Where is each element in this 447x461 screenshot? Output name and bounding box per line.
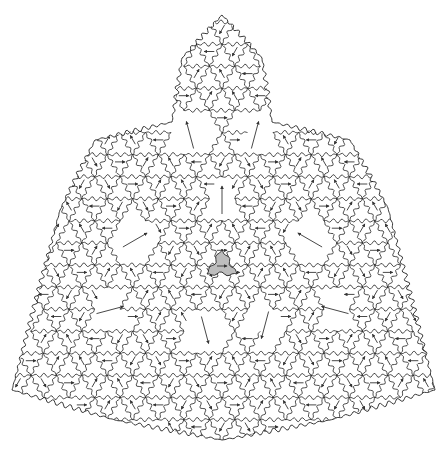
arrow-icon — [232, 356, 237, 365]
arrow-icon — [360, 356, 365, 365]
large-arrow-icon — [261, 312, 268, 339]
arrow-icon — [385, 356, 390, 365]
arrow-icon — [156, 312, 161, 321]
arrow-icon — [79, 312, 84, 321]
arrow-icon — [232, 180, 237, 189]
arrow-icon — [360, 224, 365, 233]
fractal-tiling-figure — [0, 0, 447, 461]
arrow-icon — [334, 268, 339, 277]
arrow-icon — [385, 224, 390, 233]
direction-arrows — [16, 25, 429, 431]
arrow-icon — [169, 290, 174, 299]
arrow-icon — [283, 356, 288, 365]
arrow-icon — [258, 180, 263, 189]
large-arrow-icon — [97, 306, 124, 313]
arrow-icon — [309, 180, 314, 189]
arrow-icon — [334, 401, 339, 410]
arrow-icon — [220, 69, 225, 78]
arrow-icon — [245, 290, 250, 299]
arrow-icon — [245, 158, 250, 167]
arrow-icon — [194, 202, 199, 211]
tiling-canvas — [0, 0, 447, 461]
arrow-icon — [258, 401, 263, 410]
arrow-icon — [296, 334, 301, 343]
arrow-icon — [347, 202, 352, 211]
arrow-icon — [143, 202, 148, 211]
arrow-icon — [92, 246, 97, 255]
arrow-icon — [143, 158, 148, 167]
arrow-icon — [373, 202, 378, 211]
arrow-icon — [258, 268, 263, 277]
arrow-icon — [347, 334, 352, 343]
arrow-icon — [360, 401, 365, 410]
arrow-icon — [207, 401, 212, 410]
large-arrow-icon — [251, 122, 258, 149]
arrow-icon — [105, 268, 110, 277]
arrow-icon — [181, 401, 186, 410]
arrow-icon — [283, 401, 288, 410]
arrow-icon — [220, 25, 225, 34]
arrow-icon — [92, 290, 97, 299]
arrow-icon — [194, 69, 199, 78]
arrow-icon — [398, 290, 403, 299]
arrow-icon — [181, 268, 186, 277]
arrow-icon — [232, 47, 237, 56]
arrow-icon — [424, 378, 429, 387]
arrow-icon — [296, 158, 301, 167]
arrow-icon — [67, 334, 72, 343]
large-arrow-icon — [123, 233, 147, 247]
large-arrow-icon — [201, 317, 208, 344]
arrow-icon — [169, 158, 174, 167]
arrow-icon — [334, 180, 339, 189]
arrow-icon — [143, 334, 148, 343]
highlighted-center-tile — [207, 249, 237, 276]
arrow-icon — [283, 224, 288, 233]
arrow-icon — [385, 312, 390, 321]
arrow-icon — [373, 290, 378, 299]
arrow-icon — [79, 180, 84, 189]
arrow-icon — [169, 246, 174, 255]
arrow-icon — [271, 246, 276, 255]
arrow-icon — [181, 180, 186, 189]
arrow-icon — [105, 401, 110, 410]
arrow-icon — [245, 378, 250, 387]
arrow-icon — [92, 158, 97, 167]
arrow-icon — [105, 180, 110, 189]
large-arrow-icon — [322, 306, 349, 313]
arrow-icon — [220, 423, 225, 432]
arrow-icon — [118, 334, 123, 343]
arrow-icon — [16, 378, 21, 387]
arrow-icon — [41, 378, 46, 387]
arrow-icon — [220, 290, 225, 299]
arrow-icon — [373, 334, 378, 343]
arrow-icon — [271, 378, 276, 387]
arrow-icon — [118, 202, 123, 211]
arrow-icon — [271, 202, 276, 211]
large-arrow-icon — [298, 233, 322, 247]
arrow-icon — [207, 91, 212, 100]
arrow-icon — [194, 246, 199, 255]
arrow-icon — [296, 290, 301, 299]
arrow-icon — [54, 268, 59, 277]
arrow-icon — [309, 312, 314, 321]
arrow-icon — [245, 246, 250, 255]
arrow-icon — [169, 378, 174, 387]
arrow-icon — [232, 91, 237, 100]
arrow-icon — [296, 202, 301, 211]
arrow-icon — [130, 401, 135, 410]
arrow-icon — [118, 378, 123, 387]
arrow-icon — [156, 224, 161, 233]
tile-edges — [5, 20, 439, 442]
arrow-icon — [130, 356, 135, 365]
highlighted-tile — [207, 249, 237, 276]
arrow-icon — [143, 290, 148, 299]
arrow-icon — [232, 224, 237, 233]
arrow-icon — [207, 356, 212, 365]
arrow-icon — [67, 202, 72, 211]
arrow-icon — [194, 378, 199, 387]
arrow-icon — [309, 356, 314, 365]
large-arrow-icon — [186, 122, 193, 149]
arrow-icon — [220, 158, 225, 167]
arrow-icon — [41, 334, 46, 343]
arrow-icon — [169, 423, 174, 432]
